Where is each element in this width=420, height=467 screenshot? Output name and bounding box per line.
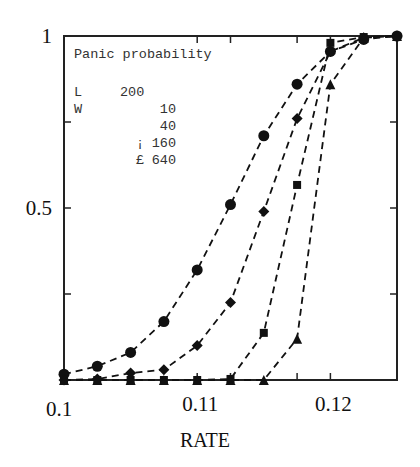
legend-value: 640: [152, 153, 176, 168]
panic-probability-chart: 0.10.110.120.51 Panic probabilityL200W10…: [0, 0, 420, 467]
diamond-marker: [258, 206, 269, 217]
circle-marker: [125, 347, 136, 358]
legend-symbol: £: [136, 153, 144, 168]
square-marker: [293, 181, 301, 189]
diamond-marker: [158, 364, 169, 375]
series-markers: [59, 31, 403, 386]
axis-tick-labels: 0.10.110.120.51: [26, 24, 352, 421]
legend-symbol: L: [74, 85, 82, 100]
legend-symbol: W: [74, 102, 83, 117]
circle-marker: [192, 264, 203, 275]
circle-marker: [225, 199, 236, 210]
legend-value: 160: [152, 136, 176, 151]
legend-symbol: ¡: [136, 136, 144, 151]
circle-marker: [258, 130, 269, 141]
triangle-marker: [292, 334, 302, 344]
x-tick-label: 0.1: [46, 397, 72, 421]
square-marker: [260, 329, 268, 337]
legend: Panic probabilityL200W1040¡160£640: [74, 47, 212, 168]
y-tick-label: 1: [42, 24, 53, 48]
legend-value: 40: [160, 119, 176, 134]
x-tick-label: 0.11: [182, 392, 218, 416]
legend-title: Panic probability: [74, 47, 212, 62]
square-marker: [326, 39, 334, 47]
circle-marker: [292, 79, 303, 90]
diamond-marker: [292, 113, 303, 124]
diamond-marker: [225, 297, 236, 308]
legend-value: 10: [160, 102, 176, 117]
x-tick-label: 0.12: [315, 392, 352, 416]
y-tick-label: 0.5: [26, 196, 52, 220]
triangle-marker: [325, 79, 335, 89]
circle-marker: [92, 361, 103, 372]
circle-marker: [158, 316, 169, 327]
x-axis-title: RATE: [180, 429, 230, 451]
legend-value: 200: [120, 85, 144, 100]
